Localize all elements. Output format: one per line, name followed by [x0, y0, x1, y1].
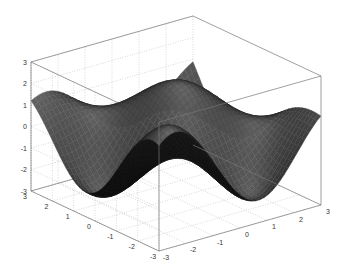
y-tick-label: 1	[66, 213, 70, 220]
y-tick-label: -3	[150, 253, 156, 260]
y-tick-label: -1	[107, 233, 113, 240]
x-tick-label: 1	[272, 223, 276, 230]
z-tick-label: 2	[23, 80, 27, 87]
axis-box-edge	[193, 16, 321, 76]
x-tick-label: -1	[217, 239, 223, 246]
z-tick-label: 1	[23, 102, 27, 109]
x-tick-label: 2	[299, 216, 303, 223]
surface-plot-figure: -3-2-10123-3-2-10123-3-2-10123	[0, 0, 349, 278]
z-tick-label: 3	[23, 59, 27, 66]
x-tick-label: 0	[245, 231, 249, 238]
y-tick-label: 3	[23, 193, 27, 200]
surface-plot: -3-2-10123-3-2-10123-3-2-10123	[0, 0, 349, 278]
x-tick-label: -3	[163, 254, 169, 261]
x-tick-label: 3	[326, 208, 330, 215]
x-tick-label: -2	[190, 246, 196, 253]
y-tick-label: 0	[87, 223, 91, 230]
y-tick-label: 2	[44, 203, 48, 210]
axis-box-edge	[159, 205, 321, 251]
z-tick-label: -2	[21, 166, 27, 173]
z-tick-label: -1	[21, 145, 27, 152]
z-tick-label: 0	[23, 123, 27, 130]
y-tick-label: -2	[129, 243, 135, 250]
